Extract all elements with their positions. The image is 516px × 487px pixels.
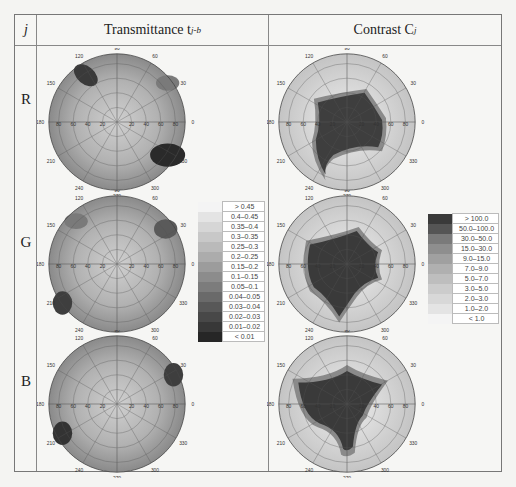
legend-entry: 9.0–15.0 (428, 254, 499, 264)
polar-plot-contrast-r (267, 48, 427, 196)
header-contrast: Contrast Cj (269, 15, 501, 45)
header-divider (15, 45, 501, 46)
transmittance-legend: > 0.45 0.4–0.45 0.35–0.4 0.3–0.35 0.25–0… (198, 201, 265, 342)
legend-entry: 0.2–0.25 (198, 252, 265, 262)
legend-entry: 7.0–9.0 (428, 264, 499, 274)
header-transmittance: Transmittance tj-b (37, 15, 268, 45)
polar-plot-contrast-g (267, 190, 427, 338)
row-label-b: B (15, 373, 37, 390)
contrast-legend: > 100.0 50.0–100.0 30.0–50.0 15.0–30.0 9… (428, 213, 499, 324)
legend-entry: 15.0–30.0 (428, 244, 499, 254)
legend-entry: 50.0–100.0 (428, 224, 499, 234)
header-contrast-sub: j (414, 25, 417, 35)
legend-entry: 30.0–50.0 (428, 234, 499, 244)
row-label-g: G (15, 234, 37, 251)
polar-plot-transmittance-r (37, 48, 197, 196)
legend-entry: 0.15–0.2 (198, 262, 265, 272)
legend-entry: 0.04–0.05 (198, 292, 265, 302)
legend-entry: 0.02–0.03 (198, 312, 265, 322)
legend-entry: 3.0–5.0 (428, 284, 499, 294)
legend-entry: 0.35–0.4 (198, 222, 265, 232)
legend-entry: 0.01–0.02 (198, 322, 265, 332)
legend-entry: < 0.01 (198, 332, 265, 342)
legend-entry: 1.0–2.0 (428, 304, 499, 314)
header-transmittance-sub: j-b (191, 25, 201, 35)
legend-entry: 0.3–0.35 (198, 232, 265, 242)
legend-entry: 2.0–3.0 (428, 294, 499, 304)
header-transmittance-label: Transmittance t (104, 22, 191, 38)
legend-entry: < 1.0 (428, 314, 499, 324)
header-contrast-label: Contrast C (354, 22, 414, 38)
polar-plot-contrast-b (267, 330, 427, 478)
polar-plot-transmittance-b (37, 330, 197, 478)
legend-entry: > 100.0 (428, 214, 499, 224)
polar-plot-transmittance-g (37, 190, 197, 338)
legend-entry: 0.1–0.15 (198, 272, 265, 282)
header-j: j (15, 15, 37, 45)
legend-entry: 0.4–0.45 (198, 212, 265, 222)
row-label-r: R (15, 91, 37, 108)
legend-entry: 0.25–0.3 (198, 242, 265, 252)
legend-entry: > 0.45 (198, 202, 265, 212)
legend-entry: 0.05–0.1 (198, 282, 265, 292)
legend-entry: 5.0–7.0 (428, 274, 499, 284)
legend-entry: 0.03–0.04 (198, 302, 265, 312)
